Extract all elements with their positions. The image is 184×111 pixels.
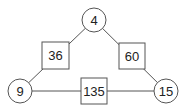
edge-value-top-right: 60 [125,49,139,64]
node-left: 9 [8,79,32,103]
node-value-top: 4 [90,13,97,28]
edge-box-top-right: 60 [119,43,145,69]
edge-value-top-left: 36 [48,48,62,63]
edge-value-left-right: 135 [83,84,105,99]
edge-box-top-left: 36 [42,42,69,69]
node-top: 4 [82,8,106,32]
node-right: 15 [154,79,178,103]
edge-box-left-right: 135 [81,78,107,104]
node-value-right: 15 [159,84,173,99]
triangle-diagram: 36 60 135 4 9 15 [0,0,184,111]
node-value-left: 9 [16,84,23,99]
